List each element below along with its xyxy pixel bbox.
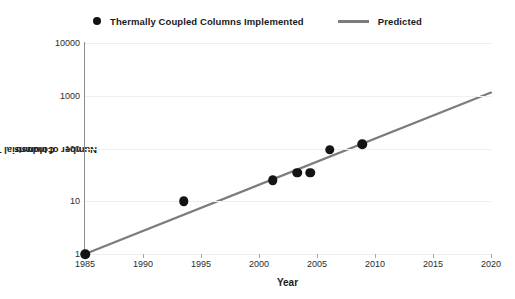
data-point — [179, 197, 189, 207]
x-axis-tick — [433, 254, 434, 258]
x-axis-tick — [201, 254, 202, 258]
x-axis-tick-label: 1985 — [75, 259, 95, 269]
data-point — [268, 176, 278, 186]
x-axis-tick — [143, 254, 144, 258]
x-axis-tick-label: 1995 — [191, 259, 211, 269]
chart-legend: Thermally Coupled Columns Implemented Pr… — [0, 9, 515, 33]
gridline-y — [85, 201, 491, 202]
data-point — [305, 168, 315, 178]
y-axis-title-text: Number of Industrial Thermally CoupledCo… — [0, 59, 42, 240]
plot-area — [85, 43, 491, 254]
y-axis-tick-label: 100 — [38, 144, 80, 154]
gridline-y — [85, 254, 491, 255]
circle-marker-icon — [93, 17, 101, 25]
data-point — [325, 145, 335, 155]
legend-entry-predicted: Predicted — [338, 16, 422, 27]
x-axis-tick-label: 2010 — [365, 259, 385, 269]
x-axis-tick-label: 1990 — [133, 259, 153, 269]
x-axis-tick-label: 2000 — [249, 259, 269, 269]
x-axis-tick-label: 2005 — [307, 259, 327, 269]
data-point — [293, 168, 303, 178]
legend-label-predicted: Predicted — [378, 16, 422, 27]
log-scatter-chart: Thermally Coupled Columns Implemented Pr… — [0, 0, 515, 299]
legend-entry-implemented: Thermally Coupled Columns Implemented — [93, 16, 304, 27]
y-axis-tick-labels: 100001000100101 — [38, 43, 80, 254]
x-axis-title: Year — [83, 277, 492, 288]
gridline-y — [85, 149, 491, 150]
x-axis-tick-label: 2015 — [423, 259, 443, 269]
y-axis-tick-label: 1000 — [38, 91, 80, 101]
gridline-y — [85, 96, 491, 97]
x-axis-tick-label: 2020 — [481, 259, 501, 269]
line-marker-icon — [338, 20, 369, 23]
legend-label-implemented: Thermally Coupled Columns Implemented — [110, 16, 304, 27]
data-point — [357, 140, 367, 150]
y-axis-title: Number of Industrial Thermally CoupledCo… — [0, 34, 42, 266]
y-axis-tick-label: 10000 — [38, 38, 80, 48]
gridline-y — [85, 43, 491, 44]
x-axis-tick — [317, 254, 318, 258]
data-point — [80, 249, 90, 259]
y-axis-tick-label: 1 — [38, 249, 80, 259]
x-axis-tick — [491, 254, 492, 258]
y-axis-tick-label: 10 — [38, 196, 80, 206]
x-axis-tick — [259, 254, 260, 258]
x-axis-tick — [375, 254, 376, 258]
